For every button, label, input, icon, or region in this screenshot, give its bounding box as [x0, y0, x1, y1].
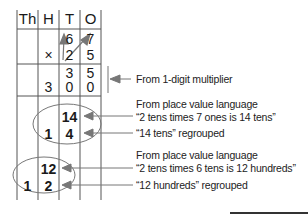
- annotation-one-digit: From 1-digit multiplier: [136, 73, 232, 85]
- annotation-regroup2: “12 hundreds” regrouped: [136, 179, 248, 191]
- multiplier-ones: 5: [80, 48, 101, 62]
- partial1-bottom-tens: 0: [59, 80, 80, 94]
- multiplicand-ones: 7: [80, 32, 101, 46]
- annotation-pv1-line2: “2 tens times 7 ones is 14 tens”: [136, 111, 276, 123]
- annotation-regroup1: “14 tens” regrouped: [136, 127, 224, 139]
- partial1-top-tens: 3: [59, 66, 80, 80]
- partial1-top-ones: 5: [80, 66, 101, 80]
- partial3-bottom-hundreds: 2: [38, 179, 59, 193]
- partial2-top-tens: 14: [59, 110, 80, 124]
- multiplicand-tens: 6: [59, 32, 80, 46]
- partial3-bottom-thousands: 1: [17, 179, 38, 193]
- header-ones: O: [80, 10, 101, 27]
- annotation-pv2-line1: From place value language: [136, 149, 258, 161]
- header-hundreds: H: [38, 10, 59, 27]
- header-thousands: Th: [17, 10, 38, 27]
- header-tens: T: [59, 10, 80, 27]
- partial1-bottom-hundreds: 3: [38, 80, 59, 94]
- partial2-bottom-tens: 4: [59, 127, 80, 141]
- annotation-pv2-line2: “2 tens times 6 tens is 12 hundreds”: [136, 162, 296, 174]
- partial3-top-hundreds: 12: [38, 162, 59, 176]
- times-sign: ×: [38, 48, 59, 62]
- partial1-bottom-ones: 0: [80, 80, 101, 94]
- multiplier-tens: 2: [59, 48, 80, 62]
- annotation-pv1-line1: From place value language: [136, 98, 258, 110]
- partial2-bottom-hundreds: 1: [38, 127, 59, 141]
